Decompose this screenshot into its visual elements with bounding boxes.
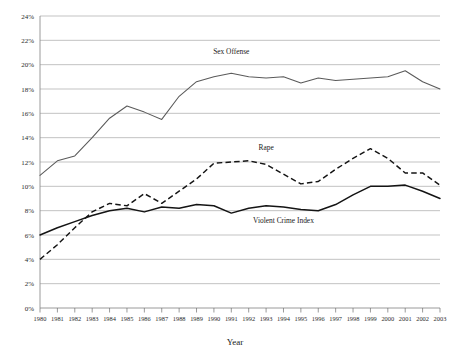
x-axis-tick-label: 1991 (225, 315, 238, 322)
series-label-violent-crime-index: Violent Crime Index (253, 216, 314, 225)
x-axis-tick-label: 1989 (190, 315, 203, 322)
x-axis-tick-label: 1998 (347, 315, 360, 322)
x-axis-tick-label: 2001 (399, 315, 412, 322)
y-axis-tick-label: 24% (21, 13, 34, 21)
x-axis-tick-label: 1999 (364, 315, 377, 322)
x-axis-tick-label: 1993 (260, 315, 273, 322)
y-axis-tick-label: 14% (21, 134, 34, 142)
x-axis-tick-label: 1981 (51, 315, 64, 322)
x-axis-tick-label: 1994 (277, 315, 291, 322)
x-axis-tick-label: 1988 (173, 315, 186, 322)
y-axis-tick-label: 0% (25, 305, 35, 313)
x-axis-tick-label: 1980 (34, 315, 47, 322)
chart-container: 0%2%4%6%8%10%12%14%16%18%20%22%24% 19801… (0, 0, 470, 358)
y-axis-tick-label: 8% (25, 207, 35, 215)
x-axis-tick-label: 1997 (329, 315, 343, 322)
x-axis-tick-label: 1990 (208, 315, 221, 322)
x-axis-tick-label: 1996 (312, 315, 325, 322)
gridlines-group (40, 16, 440, 284)
x-axis-tick-label: 1987 (155, 315, 169, 322)
y-axis-tick-label: 16% (21, 110, 34, 118)
y-axis-tick-label: 18% (21, 86, 34, 94)
y-axis-tick-label: 20% (21, 61, 34, 69)
series-label-sex-offense: Sex Offense (213, 47, 250, 56)
line-chart: 0%2%4%6%8%10%12%14%16%18%20%22%24% 19801… (0, 0, 470, 358)
series-label-rape: Rape (258, 143, 274, 152)
x-axis-title: Year (227, 337, 244, 347)
x-axis-tick-label: 1986 (138, 315, 151, 322)
series-line-violent-crime-index (40, 185, 440, 235)
y-axis-tick-label: 12% (21, 159, 34, 167)
x-axis-tick-label: 1982 (68, 315, 81, 322)
series-line-rape (40, 149, 440, 260)
x-axis-tick-label: 2003 (434, 315, 447, 322)
y-axis-tick-label: 6% (25, 232, 35, 240)
x-axis-tick-label: 1984 (103, 315, 117, 322)
x-axis-tick-label: 1995 (294, 315, 307, 322)
y-axis-tick-label: 2% (25, 280, 35, 288)
x-axis-tick-label: 2000 (381, 315, 394, 322)
y-axis-tick-label: 22% (21, 37, 34, 45)
x-axis-tickmarks (40, 308, 440, 313)
x-axis-tick-label: 2002 (416, 315, 429, 322)
y-axis-tick-labels: 0%2%4%6%8%10%12%14%16%18%20%22%24% (21, 13, 34, 313)
x-axis-tick-label: 1992 (242, 315, 255, 322)
y-axis-tick-label: 10% (21, 183, 34, 191)
series-line-sex-offense (40, 71, 440, 176)
data-series-group (40, 71, 440, 260)
x-axis-tick-label: 1985 (121, 315, 134, 322)
y-axis-tick-label: 4% (25, 256, 35, 264)
x-axis-tick-label: 1983 (86, 315, 99, 322)
x-axis-tick-labels: 1980198119821983198419851986198719881989… (34, 315, 447, 322)
